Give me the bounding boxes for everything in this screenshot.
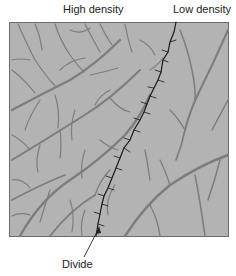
divide-label: Divide [62,258,93,270]
drainage-diagram [0,0,236,276]
